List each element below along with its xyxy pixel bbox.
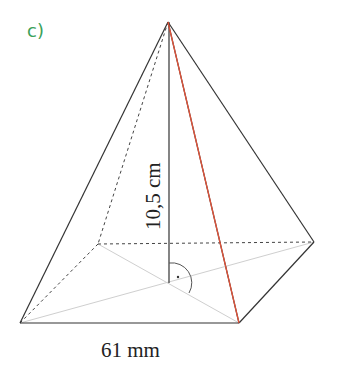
height-label: 10,5 cm (141, 162, 165, 230)
hidden-edge (98, 242, 314, 244)
right-angle-dot (177, 276, 179, 278)
base-edge-label: 61 mm (101, 338, 160, 362)
right-angle-arc (169, 263, 192, 293)
pyramid-diagram: 10,5 cm 61 mm (0, 0, 338, 377)
base-edge (239, 242, 314, 323)
hidden-edge (20, 244, 98, 323)
lateral-edge (168, 22, 314, 242)
